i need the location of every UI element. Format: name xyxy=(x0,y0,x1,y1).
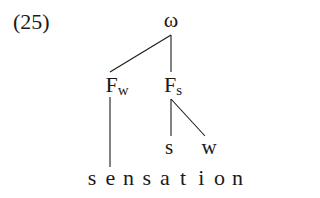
node-strong-syllable: s xyxy=(165,137,173,158)
letter: i xyxy=(192,167,210,189)
node-prosodic-word: ω xyxy=(164,9,178,31)
letter: e xyxy=(101,167,119,189)
letter: n xyxy=(229,167,247,189)
letter: t xyxy=(174,167,192,189)
foot-subscript: w xyxy=(118,82,129,98)
foot-label: F xyxy=(164,72,176,97)
node-strong-foot: Fs xyxy=(164,74,182,98)
letter: s xyxy=(138,167,156,189)
letter: s xyxy=(83,167,101,189)
foot-label: F xyxy=(105,72,117,97)
letter: a xyxy=(156,167,174,189)
node-weak-foot: Fw xyxy=(105,74,128,98)
foot-subscript: s xyxy=(176,82,182,98)
node-weak-syllable: w xyxy=(201,137,216,158)
letter: o xyxy=(210,167,228,189)
word-sensation: s e n s a t i o n xyxy=(83,167,247,189)
branch-root-to-fw xyxy=(110,35,171,72)
branch-fs-to-w xyxy=(171,99,205,136)
letter: n xyxy=(119,167,137,189)
